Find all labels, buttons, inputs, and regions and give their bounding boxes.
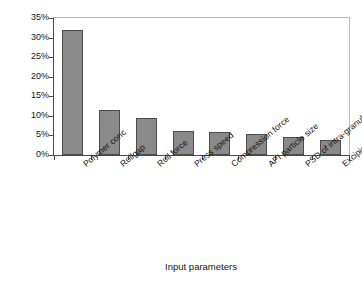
y-tick-mark: [49, 135, 54, 136]
x-tick-label: API particle size: [266, 161, 272, 169]
y-tick-label: 0%: [21, 149, 49, 159]
x-tick-label: Polymer conc: [81, 161, 87, 169]
x-tick-label: Rollgap: [118, 161, 124, 169]
x-tick-label: PSD of intra-granular blend: [303, 161, 309, 169]
y-tick-label: 30%: [21, 32, 49, 42]
y-tick-mark: [49, 116, 54, 117]
y-tick-label: 10%: [21, 110, 49, 120]
y-tick-mark: [49, 57, 54, 58]
y-tick-mark: [49, 38, 54, 39]
y-tick-mark: [49, 96, 54, 97]
y-tick-label: 25%: [21, 51, 49, 61]
x-tick-label: Roll force: [155, 161, 161, 169]
x-tick-mark: [54, 155, 55, 160]
bar-chart: Relative importance 0%5%10%15%20%25%30%3…: [0, 0, 362, 289]
x-axis-title: Input parameters: [53, 261, 349, 272]
y-tick-label: 20%: [21, 71, 49, 81]
y-tick-mark: [49, 18, 54, 19]
x-tick-label: Excipient particle size: [340, 161, 346, 169]
bar: [62, 30, 83, 155]
y-tick-mark: [49, 77, 54, 78]
y-tick-label: 5%: [21, 129, 49, 139]
y-axis-tick-labels: 0%5%10%15%20%25%30%35%: [18, 0, 49, 289]
y-tick-label: 15%: [21, 90, 49, 100]
x-tick-label: Compression force: [229, 161, 235, 169]
x-tick-label: Press speed: [192, 161, 198, 169]
y-tick-label: 35%: [21, 12, 49, 22]
